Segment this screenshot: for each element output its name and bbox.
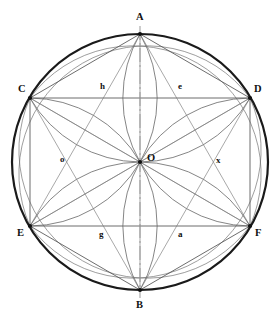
- vertex-dot-a: [138, 32, 142, 36]
- vertex-dot-c: [28, 96, 32, 100]
- vertex-dot-b: [138, 288, 142, 292]
- vertex-dot-e: [28, 224, 32, 228]
- vertex-dot-o: [138, 160, 142, 164]
- geometry-figure: ACDEFBOheoxga: [0, 0, 279, 327]
- vertex-label-d: D: [254, 84, 262, 95]
- vertex-dot-f: [248, 224, 252, 228]
- region-label-x: x: [216, 156, 221, 165]
- vertex-label-e: E: [17, 228, 24, 239]
- region-label-a: a: [178, 230, 183, 239]
- arc-D-to-E: [19, 46, 250, 226]
- region-label-e: e: [178, 82, 182, 91]
- vertex-label-b: B: [136, 300, 143, 311]
- vertex-label-o: O: [147, 153, 155, 164]
- vertex-dot-d: [248, 96, 252, 100]
- region-label-h: h: [100, 82, 105, 91]
- region-label-o: o: [60, 155, 65, 164]
- vertex-label-c: C: [18, 84, 26, 95]
- vertex-label-a: A: [136, 12, 144, 23]
- geometry-canvas: [0, 0, 279, 327]
- arc-C-to-F: [30, 46, 261, 226]
- vertex-label-f: F: [255, 228, 261, 239]
- arc-C-to-F-alt: [19, 98, 250, 278]
- arc-D-to-E-alt: [30, 98, 261, 278]
- region-label-g: g: [99, 230, 104, 239]
